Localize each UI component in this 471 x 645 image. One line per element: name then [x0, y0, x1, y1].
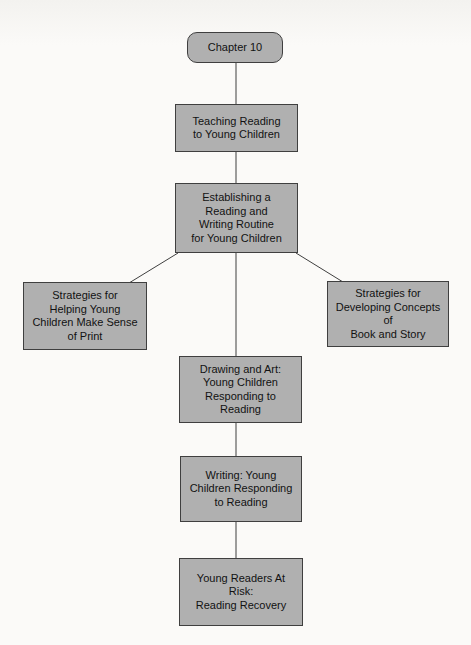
node-young-readers-at-risk-reading-recovery: Young Readers At Risk: Reading Recovery	[179, 558, 303, 626]
node-drawing-and-art-responding-to-reading: Drawing and Art: Young Children Respondi…	[179, 356, 302, 423]
connector-establishing-to-print	[129, 253, 178, 283]
node-teaching-reading-to-young-children: Teaching Reading to Young Children	[175, 104, 298, 152]
connector-establishing-to-book	[296, 253, 343, 282]
node-establishing-reading-writing-routine: Establishing a Reading and Writing Routi…	[175, 183, 298, 253]
node-chapter-10: Chapter 10	[187, 32, 283, 63]
node-strategies-concepts-of-book-and-story: Strategies for Developing Concepts of Bo…	[327, 281, 449, 347]
node-strategies-make-sense-of-print: Strategies for Helping Young Children Ma…	[23, 282, 147, 350]
flowchart-page: Chapter 10 Teaching Reading to Young Chi…	[0, 0, 471, 645]
node-writing-responding-to-reading: Writing: Young Children Responding to Re…	[180, 456, 302, 522]
